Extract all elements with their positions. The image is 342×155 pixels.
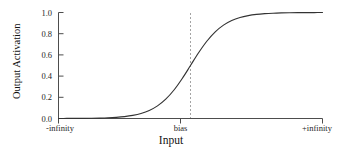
x-tick-label-bias: bias xyxy=(152,124,209,133)
x-tick-label-minus-infinity: -infinity xyxy=(32,124,88,133)
y-axis-title: Output Activation xyxy=(12,11,23,111)
y-tick-label-0: 0.0 xyxy=(14,115,52,124)
x-tick-label-plus-infinity: +infinity xyxy=(292,124,342,133)
sigmoid-activation-chart: 0.0 0.2 0.4 0.6 0.8 1.0 -infinity bias +… xyxy=(0,0,342,155)
x-axis-ticks xyxy=(59,119,323,124)
x-axis-title: Input xyxy=(0,135,342,147)
y-axis-ticks xyxy=(59,13,64,119)
